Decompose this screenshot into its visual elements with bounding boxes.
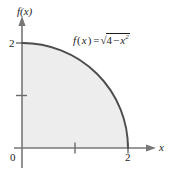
figure-container: f(x) x 2 2 0 f(x)=√4−x2 [0, 0, 171, 179]
shaded-region [22, 43, 128, 148]
square-root-expression: √4−x2 [101, 34, 130, 46]
y-axis-arrowhead [18, 16, 25, 26]
function-argument: x [82, 34, 87, 46]
origin-label: 0 [10, 152, 16, 163]
function-equation-label: f(x)=√4−x2 [73, 34, 130, 46]
radicand: 4−x2 [106, 33, 130, 46]
y-tick-label-2: 2 [9, 38, 15, 49]
x-axis-label: x [159, 142, 164, 153]
x-axis-arrowhead [146, 144, 156, 151]
x-tick-label-2: 2 [125, 152, 131, 163]
plot-area [0, 0, 171, 179]
radicand-exponent: 2 [125, 33, 129, 41]
equals-sign: = [92, 34, 100, 46]
y-axis-label: f(x) [17, 6, 32, 17]
